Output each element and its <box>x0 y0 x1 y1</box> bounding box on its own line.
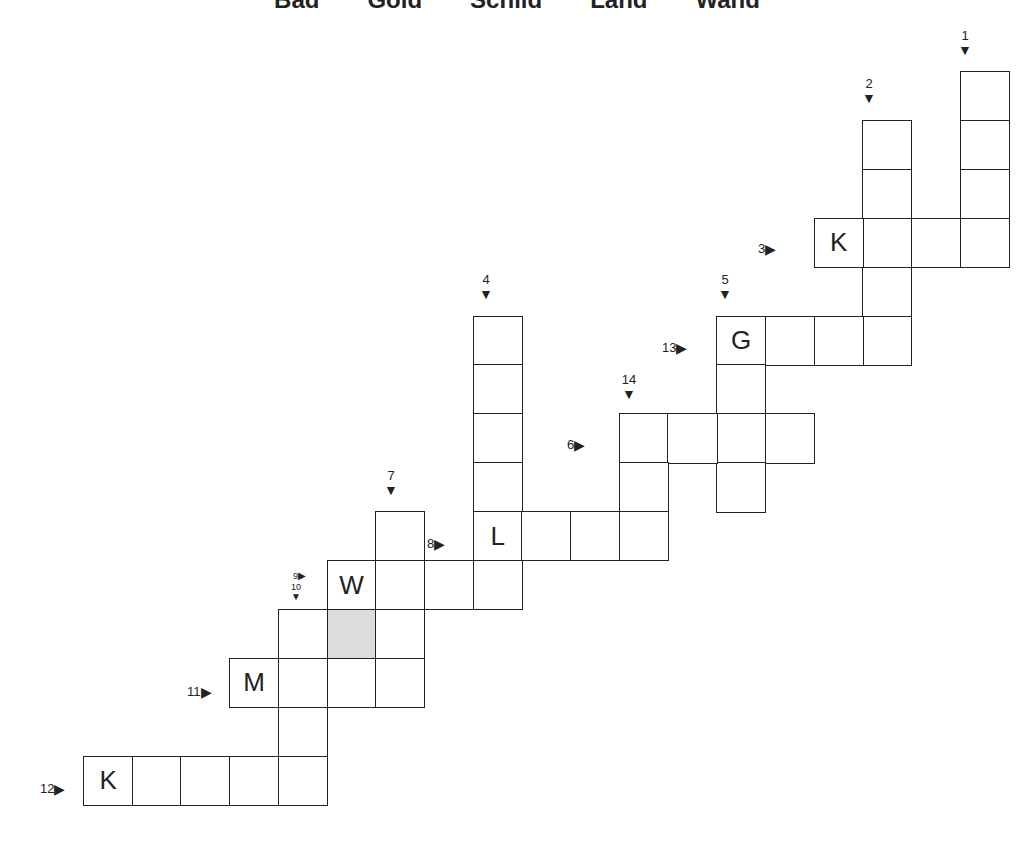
grid-cell[interactable]: K <box>814 218 864 268</box>
grid-cell[interactable] <box>473 560 523 610</box>
grid-cell[interactable] <box>229 756 279 806</box>
arrow-right-icon: ▶ <box>298 571 306 581</box>
given-letter: K <box>830 227 847 258</box>
grid-cell[interactable]: L <box>473 511 523 561</box>
crossword-grid: KGLWMK1▼2▼3▶4▼5▼13▶14▼6▶7▼8▶9▶10▼11▶12▶ <box>0 0 1034 844</box>
clue-marker-3: 3▶ <box>758 241 776 256</box>
clue-number: 7 <box>387 468 394 483</box>
grid-cell[interactable] <box>521 511 571 561</box>
arrow-down-icon: ▼ <box>622 387 636 401</box>
clue-marker-9: 9▶ <box>293 571 306 581</box>
given-letter: M <box>243 667 265 698</box>
grid-cell[interactable] <box>278 707 328 757</box>
grid-cell[interactable] <box>862 218 912 268</box>
arrow-right-icon: ▶ <box>574 438 585 452</box>
grid-cell[interactable] <box>960 218 1010 268</box>
grid-cell[interactable]: G <box>716 316 766 366</box>
clue-number: 4 <box>482 272 489 287</box>
clue-marker-13: 13▶ <box>662 340 687 355</box>
grid-cell[interactable] <box>375 609 425 659</box>
clue-marker-8: 8▶ <box>427 536 445 551</box>
given-letter: W <box>339 570 364 601</box>
grid-cell[interactable] <box>473 364 523 414</box>
clue-number: 11 <box>187 684 201 699</box>
clue-marker-1: 1▼ <box>958 28 972 57</box>
clue-marker-12: 12▶ <box>40 781 65 796</box>
arrow-right-icon: ▶ <box>676 341 687 355</box>
grid-cell[interactable] <box>473 413 523 463</box>
grid-cell[interactable] <box>278 658 328 708</box>
grid-cell[interactable] <box>960 71 1010 121</box>
grid-cell[interactable] <box>473 462 523 512</box>
grid-cell[interactable] <box>667 413 717 463</box>
grid-cell[interactable] <box>862 267 912 317</box>
clue-number: 2 <box>865 76 872 91</box>
grid-cell[interactable] <box>960 120 1010 170</box>
clue-marker-5: 5▼ <box>718 272 732 301</box>
grid-cell[interactable] <box>180 756 230 806</box>
grid-cell[interactable] <box>327 658 377 708</box>
grid-cell[interactable] <box>619 462 669 512</box>
clue-marker-11: 11▶ <box>187 684 212 699</box>
clue-marker-10: 10▼ <box>291 582 301 602</box>
clue-marker-14: 14▼ <box>622 372 636 401</box>
clue-number: 3 <box>758 241 765 256</box>
grid-cell[interactable]: K <box>83 756 133 806</box>
arrow-down-icon: ▼ <box>958 43 972 57</box>
clue-marker-4: 4▼ <box>479 272 493 301</box>
given-letter: L <box>490 521 504 552</box>
arrow-down-icon: ▼ <box>862 91 876 105</box>
grid-cell[interactable] <box>278 756 328 806</box>
grid-cell[interactable] <box>375 511 425 561</box>
grid-cell[interactable] <box>911 218 961 268</box>
clue-marker-7: 7▼ <box>384 468 398 497</box>
grid-cell[interactable]: W <box>327 560 377 610</box>
grid-cell[interactable] <box>862 120 912 170</box>
grid-cell[interactable] <box>716 364 766 414</box>
clue-number: 6 <box>567 437 574 452</box>
grid-cell[interactable] <box>716 462 766 512</box>
grid-cell[interactable] <box>814 316 864 366</box>
grid-cell[interactable] <box>862 169 912 219</box>
clue-number: 13 <box>662 340 676 355</box>
shaded-cell[interactable] <box>327 609 377 659</box>
grid-cell[interactable] <box>862 316 912 366</box>
grid-cell[interactable] <box>424 560 474 610</box>
clue-number: 14 <box>622 372 636 387</box>
clue-marker-2: 2▼ <box>862 76 876 105</box>
arrow-down-icon: ▼ <box>291 592 301 602</box>
grid-cell[interactable] <box>473 316 523 366</box>
grid-cell[interactable] <box>619 511 669 561</box>
clue-number: 1 <box>961 28 968 43</box>
grid-cell[interactable] <box>619 413 669 463</box>
given-letter: G <box>731 325 751 356</box>
arrow-right-icon: ▶ <box>434 537 445 551</box>
grid-cell[interactable] <box>570 511 620 561</box>
clue-number: 8 <box>427 536 434 551</box>
arrow-down-icon: ▼ <box>718 287 732 301</box>
grid-cell[interactable] <box>765 316 815 366</box>
grid-cell[interactable] <box>278 609 328 659</box>
grid-cell[interactable] <box>716 413 766 463</box>
grid-cell[interactable]: M <box>229 658 279 708</box>
clue-number: 5 <box>721 272 728 287</box>
clue-marker-6: 6▶ <box>567 437 585 452</box>
given-letter: K <box>99 765 116 796</box>
arrow-right-icon: ▶ <box>765 242 776 256</box>
grid-cell[interactable] <box>765 413 815 463</box>
clue-number: 12 <box>40 781 54 796</box>
grid-cell[interactable] <box>960 169 1010 219</box>
arrow-down-icon: ▼ <box>479 287 493 301</box>
grid-cell[interactable] <box>375 658 425 708</box>
grid-cell[interactable] <box>132 756 182 806</box>
grid-cell[interactable] <box>375 560 425 610</box>
arrow-right-icon: ▶ <box>201 685 212 699</box>
arrow-down-icon: ▼ <box>384 483 398 497</box>
arrow-right-icon: ▶ <box>54 782 65 796</box>
